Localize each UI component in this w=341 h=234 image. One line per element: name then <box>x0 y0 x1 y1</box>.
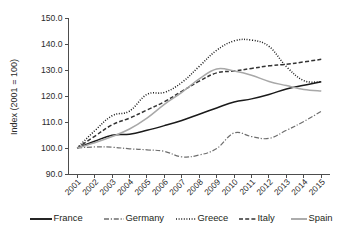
x-tick-label: 2011 <box>237 177 257 197</box>
x-axis-ticks: 2001200220032004200520062007200820092010… <box>63 174 328 197</box>
y-tick-label: 110.0 <box>42 117 63 127</box>
y-tick-label: 100.0 <box>41 143 63 153</box>
x-tick-label: 2003 <box>97 177 117 197</box>
x-tick-label: 2014 <box>289 177 309 197</box>
y-tick-label: 140.0 <box>41 39 63 49</box>
x-tick-label: 2012 <box>254 177 274 197</box>
x-tick-label: 2006 <box>150 177 170 197</box>
x-tick-label: 2002 <box>80 177 100 197</box>
x-tick-label: 2010 <box>219 177 239 197</box>
x-tick-label: 2009 <box>202 177 222 197</box>
x-tick-label: 2001 <box>63 177 83 197</box>
legend-label-france: France <box>54 212 83 223</box>
y-tick-label: 150.0 <box>41 13 63 23</box>
chart-legend: FranceGermanyGreeceItalySpain <box>30 212 332 223</box>
chart-canvas: Index (2001 = 100) 90.0100.0110.0120.013… <box>0 0 341 234</box>
x-tick-label: 2015 <box>307 177 327 197</box>
x-tick-label: 2008 <box>185 177 205 197</box>
legend-label-italy: Italy <box>258 212 276 223</box>
legend-label-germany: Germany <box>126 212 165 223</box>
x-tick-label: 2005 <box>132 177 152 197</box>
line-chart: Index (2001 = 100) 90.0100.0110.0120.013… <box>0 0 341 234</box>
series-line-germany <box>77 111 321 157</box>
y-axis-title: Index (2001 = 100) <box>9 59 19 135</box>
x-tick-label: 2013 <box>272 177 292 197</box>
series-lines <box>77 39 321 157</box>
y-tick-label: 120.0 <box>41 91 63 101</box>
series-line-france <box>77 82 321 148</box>
legend-label-spain: Spain <box>309 212 333 223</box>
y-tick-label: 130.0 <box>41 65 63 75</box>
legend-label-greece: Greece <box>198 212 229 223</box>
y-axis-title-label: Index (2001 = 100) <box>9 59 19 135</box>
x-tick-label: 2004 <box>115 177 135 197</box>
x-tick-label: 2007 <box>167 177 187 197</box>
y-tick-label: 90.0 <box>46 169 63 179</box>
y-axis-ticks: 90.0100.0110.0120.0130.0140.0150.0 <box>41 13 69 179</box>
